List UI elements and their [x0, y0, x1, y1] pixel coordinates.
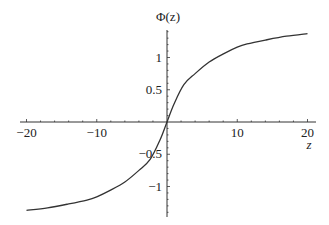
- x-tick-label: −10: [87, 125, 107, 140]
- y-axis: 10.5−0.5−1 Φ(z): [138, 9, 180, 217]
- y-tick-label: 1: [156, 50, 163, 65]
- y-axis-label: Φ(z): [156, 9, 180, 24]
- x-tick-label: −20: [16, 125, 36, 140]
- y-tick-label: 0.5: [146, 82, 162, 97]
- y-tick-label: −1: [148, 179, 162, 194]
- x-tick-label: 10: [231, 125, 244, 140]
- chart: −20−101020 z 10.5−0.5−1 Φ(z): [0, 0, 329, 225]
- x-axis-label: z: [305, 137, 311, 152]
